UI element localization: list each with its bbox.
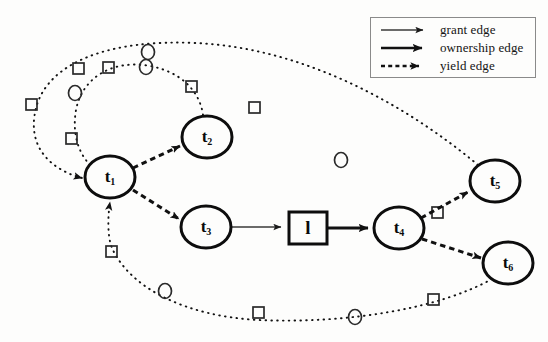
legend-label-ownership-edge: ownership edge: [440, 40, 523, 56]
legend-item-grant-edge: grant edge: [379, 21, 496, 39]
nodes: [85, 116, 533, 284]
legend-label-yield-edge: yield edge: [440, 58, 495, 74]
grant-edge-sample: [379, 23, 435, 37]
node-t3[interactable]: [181, 206, 231, 248]
path-markers-t6: [106, 246, 439, 325]
legend: grant edge ownership edge yield edge: [370, 17, 536, 78]
circle-marker: [159, 284, 172, 299]
edge-t4-t6: [422, 239, 481, 258]
square-marker: [428, 294, 439, 305]
edge-t1-t3: [133, 190, 179, 219]
node-t4[interactable]: [374, 207, 424, 249]
edge-t4-t5: [421, 192, 468, 218]
square-marker: [73, 63, 84, 74]
node-label-l: l: [305, 217, 310, 239]
circle-marker: [140, 60, 153, 75]
square-marker: [103, 62, 114, 73]
circle-marker: [349, 310, 362, 325]
square-marker: [253, 307, 264, 318]
ownership-edge-sample: [379, 41, 435, 55]
circle-marker: [335, 153, 348, 168]
legend-label-grant-edge: grant edge: [440, 22, 496, 38]
path-markers-t2: [66, 60, 197, 145]
circle-marker: [69, 86, 82, 101]
legend-item-ownership-edge: ownership edge: [379, 39, 523, 57]
node-t1[interactable]: [85, 156, 135, 198]
node-t2[interactable]: [182, 116, 232, 158]
node-t5[interactable]: [470, 160, 520, 202]
node-t6[interactable]: [483, 242, 533, 284]
square-marker: [249, 102, 260, 113]
circle-marker: [142, 45, 155, 60]
yield-edge-sample: [379, 59, 435, 73]
edge-t1-t2: [133, 146, 180, 168]
dotted-path-t2-to-t1: [75, 65, 203, 170]
square-marker: [186, 81, 197, 92]
legend-item-yield-edge: yield edge: [379, 57, 495, 75]
figure-canvas: t1 t2 t3 t4 t5 t6 l grant edge ownership…: [0, 0, 548, 342]
